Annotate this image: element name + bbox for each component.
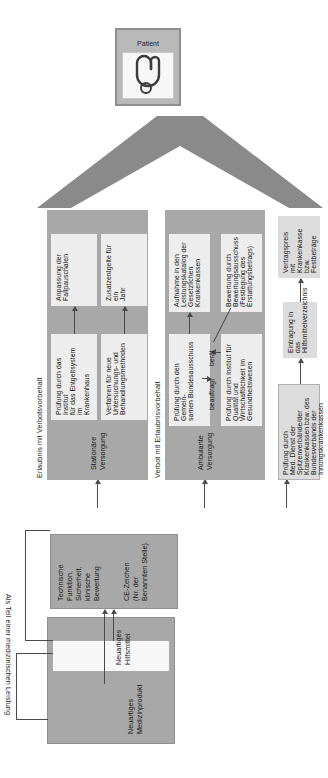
bewertung-bewertungsausschuss-label: Bewertung durch Bewertungsausschuss (Fes… [221, 234, 257, 312]
verfahren-neue-methoden-label: Verfahren für neue Untersuchungs- und Be… [101, 334, 130, 420]
pruefung-iqwig-label: Prüfung durch Institut für Qualität und … [221, 334, 257, 426]
feeder-line-mdk-drop [25, 530, 50, 531]
als-teil-rail [16, 654, 17, 720]
arrow-gba-to-leistungskatalog [189, 313, 190, 334]
arrow-hilfsmittel-to-ce [113, 610, 114, 641]
patient-label: Patient [137, 39, 159, 46]
als-teil-label: Als Teil einer medizinischen Leistung [4, 594, 13, 715]
neuartiges-medizinprodukt-label: Neuartiges Medizinprodukt [122, 669, 148, 739]
person-icon [132, 47, 168, 95]
ce-zeichen-label: CE-Zeichen (Nr. der Benannten Stelle) [118, 536, 153, 606]
zusatzentgelte-label: Zusatzentgelte für ein Jahr [101, 234, 130, 306]
feeder-rail-mdk [25, 531, 26, 641]
arrow-entgeltsystem-to-fallpauschalen [74, 307, 75, 334]
aufnahme-leistungskatalog-label: Aufnahme in den Leistungskatalog der Ges… [169, 234, 205, 312]
patient-node: Patient [115, 28, 181, 106]
arrow-into-ambulant [204, 480, 205, 508]
feeder-line-mdk-riser [25, 640, 53, 641]
neuartiges-medizinprodukt-box [47, 617, 175, 744]
lane-stationaer-label: Stationäre Versorgung [85, 415, 111, 475]
pruefung-gba-label: Prüfung durch den Gemein- samen Bundesau… [169, 334, 198, 426]
arrow-eintragung-to-vertragspreis [300, 279, 301, 302]
pruefung-mdk-label: Prüfung durch Med. Dienst der Spitzenver… [278, 384, 328, 480]
pruefung-entgeltsystem-label: Prüfung durch das Institut für das Entge… [51, 334, 94, 420]
arrow-verfahren-to-zusatzentgelte [124, 307, 125, 334]
section-label-verbot: Verbot mit Erlaubnisvorbehalt [153, 381, 162, 478]
vertragspreis-label: Vertragspreis mit Krankenkasse bzw. Fest… [278, 216, 321, 278]
anpassung-fallpauschalen-label: Anpassung der Fallpauschalen [51, 234, 73, 306]
convergence-chevron [37, 116, 323, 208]
arrow-into-stationaer [97, 480, 98, 508]
arrow-medizinprodukt-to-ce [104, 610, 105, 641]
patient-icon-plate [122, 52, 174, 99]
arrow-into-mdk [286, 480, 287, 508]
feeder-line-stationaer [16, 719, 48, 720]
neuartiges-hilfsmittel-label: Neuartiges Hilfsmittel [110, 642, 136, 670]
section-label-erlaubnis: Erlaubnis mit Verbotsvorbehalt [35, 378, 44, 478]
arrow-mdk-to-eintragung [300, 359, 301, 384]
feeder-line-ambulant [16, 653, 53, 654]
technische-funktion-label: Technische Funktion, Sicherheit, klinisc… [52, 536, 105, 606]
eintragung-hilfsmittelverzeichnis-label: Eintragung in das Hilfsmittelverzeichnis [283, 302, 312, 358]
edge-label-beauftragt: beauftragt [208, 370, 215, 410]
